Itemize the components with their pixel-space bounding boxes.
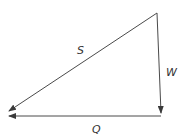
vector-s-label: S: [77, 44, 84, 57]
vector-w: W: [157, 13, 178, 113]
vector-q: Q: [9, 116, 161, 136]
vector-q-label: Q: [92, 123, 101, 136]
vector-triangle-diagram: S W Q: [0, 0, 183, 139]
vector-s: S: [9, 13, 157, 111]
vector-w-line: [157, 13, 161, 113]
vector-s-line: [9, 13, 157, 111]
vector-w-label: W: [166, 66, 178, 79]
